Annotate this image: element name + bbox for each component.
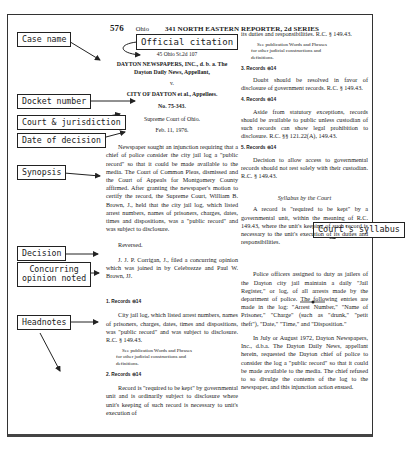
- pub-line: definitions.: [251, 55, 362, 61]
- appellant-line1: DAYTON NEWSPAPERS, INC., d. b. a. The: [106, 61, 238, 69]
- state-label: Ohio: [136, 25, 149, 32]
- versus: v.: [106, 79, 238, 87]
- synopsis-text: Newspaper sought an injunction requiring…: [106, 143, 238, 233]
- label-headnotes: Headnotes: [17, 315, 71, 330]
- court: Supreme Court of Ohio.: [106, 115, 238, 123]
- arrow-synopsis: [64, 173, 100, 176]
- left-column: 45 Ohio St.2d 107 DAYTON NEWSPAPERS, INC…: [106, 50, 238, 417]
- headnote-key: 5. Records ⊜14: [241, 144, 368, 152]
- headnote-2-continued: its duties and responsibilities. R.C. § …: [241, 30, 368, 38]
- docket-number: No. 75-343.: [106, 102, 238, 110]
- label-synopsis: Synopsis: [17, 165, 66, 180]
- label-case-name: Case name: [17, 32, 71, 47]
- headnote-3: 3. Records ⊜14 Doubt should be resolved …: [241, 65, 368, 93]
- decision-date: Feb. 11, 1976.: [106, 126, 238, 134]
- syllabus-title: Syllabus by the Court: [241, 194, 368, 202]
- headnote-key: 4. Records ⊜14: [241, 96, 368, 104]
- concurring-text: J. J. P. Corrigan, J., filed a concurrin…: [106, 256, 238, 281]
- syllabus-text: A record is "required to be kept" by a g…: [241, 205, 368, 246]
- pub-line: definitions.: [116, 361, 232, 367]
- headnote-text: City jail log, which listed arrest numbe…: [106, 311, 238, 344]
- label-concurring-opinion: Concurring opinion noted: [17, 262, 91, 287]
- headnote-text: Aside from statutory exceptions, records…: [241, 108, 368, 141]
- decision-text: Reversed.: [106, 241, 238, 249]
- right-column: its duties and responsibilities. R.C. § …: [241, 30, 368, 391]
- label-date-of-decision: Date of decision: [17, 133, 106, 148]
- label-docket-number: Docket number: [17, 94, 91, 109]
- arrow-case-name: [67, 40, 100, 60]
- arrow-headnotes-2: [40, 333, 60, 371]
- words-phrases-note: See publication Words and Phrases for ot…: [241, 42, 368, 61]
- headnote-key: 1. Records ⊜14: [106, 298, 238, 306]
- headnote-key: 3. Records ⊜14: [241, 65, 368, 73]
- headnote-text: Record is "required to be kept" by gover…: [106, 384, 238, 417]
- headnote-1: 1. Records ⊜14 City jail log, which list…: [106, 298, 238, 367]
- words-phrases-note: See publication Words and Phrases for ot…: [106, 348, 238, 367]
- headnote-text: Decision to allow access to governmental…: [241, 156, 368, 181]
- headnote-key: 2. Records ⊜14: [106, 371, 238, 379]
- page-number: 576: [110, 23, 124, 33]
- headnote-4: 4. Records ⊜14 Aside from statutory exce…: [241, 96, 368, 140]
- headnote-text: Doubt should be resolved in favor of dis…: [241, 76, 368, 92]
- label-concurring-line2: opinion noted: [22, 274, 86, 283]
- label-official-citation: Official citation: [136, 34, 238, 50]
- appellee: CITY OF DAYTON et al., Appellees.: [106, 90, 238, 98]
- headnote-2: 2. Records ⊜14 Record is "required to be…: [106, 371, 238, 417]
- opinion-para-2: In July or August 1972, Dayton Newspaper…: [241, 334, 368, 391]
- official-citation: 45 Ohio St.2d 107: [116, 50, 238, 58]
- appellant-line2: Dayton Daily News, Appellant,: [106, 69, 238, 77]
- opinion-para-1: Police officers assigned to duty as jail…: [241, 270, 368, 327]
- headnote-5: 5. Records ⊜14 Decision to allow access …: [241, 144, 368, 180]
- label-decision: Decision: [17, 246, 66, 261]
